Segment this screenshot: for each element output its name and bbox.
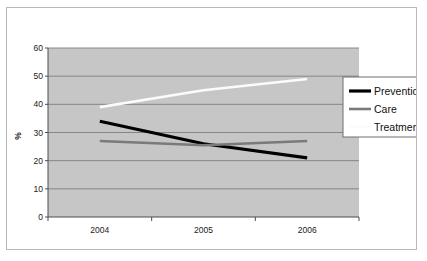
legend-label-care[interactable]: Care — [374, 103, 397, 115]
y-axis-tick-label: 0 — [38, 212, 43, 222]
legend-label-treatment[interactable]: Treatment — [374, 121, 416, 133]
y-axis-title: % — [13, 132, 23, 140]
line-chart: 6050403020100 200420052006 % PreventionC… — [7, 8, 416, 249]
x-axis-tick-label: 2006 — [298, 225, 317, 235]
legend-label-prevention[interactable]: Prevention — [374, 85, 416, 97]
x-axis-tick-label: 2004 — [90, 225, 109, 235]
x-axis-tick-label: 2005 — [194, 225, 213, 235]
y-axis-tick-label: 20 — [34, 156, 44, 166]
y-axis-tick-label: 30 — [34, 128, 44, 138]
y-axis-tick-label: 60 — [34, 43, 44, 53]
y-axis-tick-label: 50 — [34, 71, 44, 81]
chart-frame: 6050403020100 200420052006 % PreventionC… — [6, 7, 417, 250]
x-axis-tickmarks — [48, 217, 359, 221]
y-axis-tick-label: 40 — [34, 99, 44, 109]
chart-legend[interactable]: PreventionCareTreatment — [343, 77, 416, 137]
x-axis-tick-labels: 200420052006 — [90, 225, 317, 235]
y-axis-tick-label: 10 — [34, 184, 44, 194]
y-axis-tick-labels: 6050403020100 — [34, 43, 44, 222]
